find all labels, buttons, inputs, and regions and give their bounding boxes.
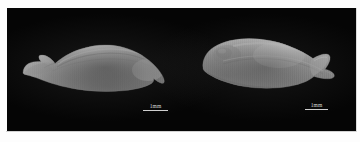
scale-bar-left: 1mm xyxy=(143,103,168,111)
specimen-left xyxy=(14,28,172,94)
scale-bar-right-rule xyxy=(305,109,328,110)
plate-edge-bottom xyxy=(6,131,357,132)
specimen-right xyxy=(193,24,343,96)
specimen-panel xyxy=(7,8,356,132)
scale-bar-right: 1mm xyxy=(305,102,328,110)
specimen-right-image xyxy=(193,24,343,96)
specimen-left-body xyxy=(14,28,172,94)
figure-root: 1mm 1mm xyxy=(0,0,360,142)
plate-edge-right xyxy=(356,8,357,132)
specimen-right-body xyxy=(193,24,343,96)
specimen-left-image xyxy=(14,28,172,94)
scale-bar-left-rule xyxy=(143,110,168,111)
